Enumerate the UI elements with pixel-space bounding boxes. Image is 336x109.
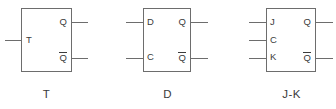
q-not-output-text: Q — [178, 52, 186, 63]
q-output-text: Q — [178, 16, 186, 27]
d-flip-flop-group: D C Q Q D — [110, 0, 223, 109]
c-input-lead — [249, 40, 267, 41]
t-q-not-output-label: Q — [47, 52, 67, 63]
j-input-lead — [249, 22, 267, 23]
d-flip-flop-caption: D — [121, 88, 214, 101]
q-not-output-text: Q — [303, 52, 311, 63]
flip-flop-symbols-diagram: T Q Q T D C Q Q D — [0, 0, 336, 109]
q-output-text: Q — [303, 16, 311, 27]
j-input-label: J — [270, 17, 275, 27]
t-q-not-output-lead — [71, 58, 88, 59]
jk-q-output-lead — [315, 22, 333, 23]
d-input-label: D — [147, 17, 154, 27]
d-q-output-lead — [190, 22, 208, 23]
t-input-label: T — [26, 35, 32, 45]
jk-flip-flop-group: J C K Q Q J-K — [223, 0, 336, 109]
q-output-text: Q — [59, 16, 67, 27]
t-input-lead — [5, 40, 22, 41]
d-q-not-output-lead — [190, 58, 208, 59]
t-flip-flop-group: T Q Q T — [0, 0, 110, 109]
c-input-label: C — [147, 52, 154, 62]
c-input-label: C — [270, 35, 277, 45]
jk-flip-flop-caption: J-K — [245, 88, 336, 101]
jk-q-not-output-lead — [315, 58, 333, 59]
t-q-output-label: Q — [47, 17, 67, 27]
q-not-output-text: Q — [59, 52, 67, 63]
jk-q-not-output-label: Q — [291, 52, 311, 63]
t-q-output-lead — [71, 22, 88, 23]
k-input-lead — [249, 58, 267, 59]
d-q-not-output-label: Q — [166, 52, 186, 63]
d-input-lead — [126, 22, 144, 23]
k-input-label: K — [270, 52, 277, 62]
d-q-output-label: Q — [166, 17, 186, 27]
c-input-lead — [126, 58, 144, 59]
t-flip-flop-caption: T — [0, 88, 93, 101]
jk-q-output-label: Q — [291, 17, 311, 27]
